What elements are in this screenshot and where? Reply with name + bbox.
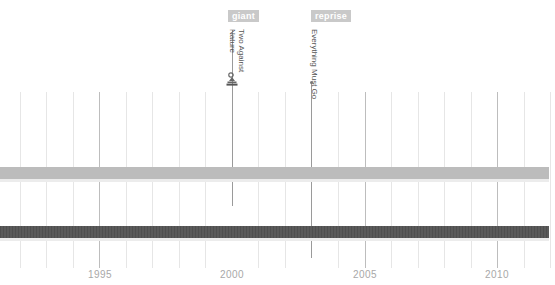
axis-tick-1995: 1995: [88, 269, 112, 280]
event-title-two-against-nature[interactable]: Two Against Nature: [228, 29, 246, 72]
event-title-line2: Nature: [228, 29, 237, 72]
grid-line-1997: [152, 92, 153, 268]
grid-line-1993: [46, 92, 47, 268]
timeline-bar-light[interactable]: [0, 167, 549, 179]
grid-line-2012: [550, 92, 551, 268]
grid-line-1998: [179, 92, 180, 268]
grid-line-1996: [126, 92, 127, 268]
grid-line-1995: [99, 92, 100, 268]
event-title-line1: Everything Must Go: [310, 29, 319, 99]
event-title-everything-must-go[interactable]: Everything Must Go: [310, 29, 319, 99]
grid-line-2008: [444, 92, 445, 268]
event-title-line1: Two Against: [237, 29, 246, 72]
award-icon[interactable]: [226, 72, 238, 86]
grid-line-2004: [338, 92, 339, 268]
grid-line-1999: [205, 92, 206, 268]
grid-line-2006: [391, 92, 392, 268]
grid-line-2011: [524, 92, 525, 268]
grid-line-2001: [258, 92, 259, 268]
grid-line-2007: [418, 92, 419, 268]
grid-line-1992: [20, 92, 21, 268]
event-tag-giant[interactable]: giant: [228, 10, 259, 22]
axis-tick-2010: 2010: [485, 269, 509, 280]
axis-tick-2000: 2000: [220, 269, 244, 280]
grid-line-1994: [73, 92, 74, 268]
grid-line-2005: [365, 92, 366, 268]
event-marker-dot[interactable]: [310, 81, 313, 84]
grid-line-2002: [285, 92, 286, 268]
axis-tick-2005: 2005: [353, 269, 377, 280]
timeline-bar-dark[interactable]: [0, 226, 549, 238]
grid-line-2010: [497, 92, 498, 268]
grid-line-2009: [471, 92, 472, 268]
timeline-chart: giant Two Against Nature reprise Everyth…: [0, 0, 555, 285]
event-tag-reprise[interactable]: reprise: [311, 10, 351, 22]
